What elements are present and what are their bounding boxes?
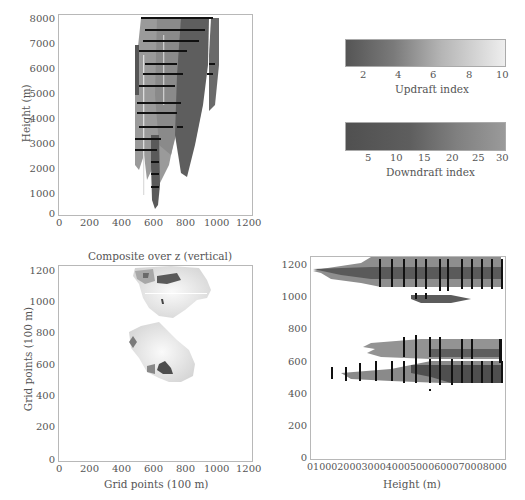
x-tick: 7000 — [459, 462, 483, 472]
y-tick: 400 — [36, 391, 55, 401]
y-tick: 4000 — [30, 114, 55, 124]
x-tick: 6000 — [434, 462, 458, 472]
cb-tick: 30 — [496, 153, 509, 163]
plot-area-bottom-left — [58, 265, 253, 462]
x-axis-label: Height (m) — [383, 479, 441, 490]
y-tick: 1200 — [30, 266, 55, 276]
y-tick: 7000 — [30, 39, 55, 49]
y-tick: 1000 — [30, 189, 55, 199]
cb-tick: 25 — [472, 153, 485, 163]
x-tick: 800 — [176, 464, 195, 474]
y-tick: 600 — [36, 360, 55, 370]
cb-tick: 8 — [466, 70, 472, 80]
cb-tick: 20 — [446, 153, 459, 163]
y-tick: 3000 — [30, 139, 55, 149]
composite-shapes — [59, 266, 252, 461]
plot-area-top-left — [58, 14, 253, 216]
y-tick: 5000 — [30, 89, 55, 99]
x-tick: 1000 — [313, 462, 337, 472]
x-tick: 600 — [144, 464, 163, 474]
y-tick: 1000 — [30, 297, 55, 307]
updraft-gradient — [345, 39, 506, 67]
x-axis-label: Grid points (100 m) — [104, 479, 208, 490]
x-tick: 200 — [80, 218, 99, 228]
x-tick: 3000 — [362, 462, 386, 472]
y-tick: 8000 — [30, 14, 55, 24]
y-tick: 200 — [288, 421, 307, 431]
x-tick: 2000 — [337, 462, 361, 472]
vertical-section-shapes — [59, 15, 252, 215]
x-tick: 0 — [56, 464, 62, 474]
x-tick: 200 — [80, 464, 99, 474]
plot-title: Composite over z (vertical) — [88, 251, 232, 262]
y-tick: 400 — [288, 389, 307, 399]
x-tick: 400 — [112, 218, 131, 228]
x-tick: 600 — [144, 218, 163, 228]
plot-area-bottom-right — [310, 256, 506, 460]
y-tick: 2000 — [30, 164, 55, 174]
y-tick: 800 — [36, 328, 55, 338]
colorbar-label: Downdraft index — [386, 167, 475, 178]
y-tick: 0 — [49, 455, 55, 465]
x-tick: 1000 — [204, 464, 229, 474]
y-tick: 600 — [288, 357, 307, 367]
colorbar-label: Updraft index — [395, 84, 469, 95]
downdraft-gradient — [345, 122, 506, 151]
y-tick: 800 — [288, 324, 307, 334]
x-tick: 0 — [56, 218, 62, 228]
x-tick: 1000 — [204, 218, 229, 228]
x-ticks: 0 1000 2000 3000 4000 5000 6000 7000 800… — [307, 462, 507, 472]
cb-tick: 10 — [496, 70, 509, 80]
y-tick: 200 — [36, 422, 55, 432]
cb-tick: 6 — [430, 70, 436, 80]
x-tick: 1200 — [236, 464, 261, 474]
y-tick: 0 — [49, 209, 55, 219]
y-tick: 6000 — [30, 64, 55, 74]
cb-tick: 5 — [365, 153, 371, 163]
y-tick: 1000 — [282, 292, 307, 302]
cb-tick: 10 — [390, 153, 403, 163]
y-tick: 1200 — [282, 260, 307, 270]
x-tick: 800 — [176, 218, 195, 228]
cb-tick: 2 — [360, 70, 366, 80]
y-axis-label: Grid points (100 m) — [23, 315, 34, 411]
height-section-shapes — [311, 257, 505, 459]
cb-tick: 15 — [418, 153, 431, 163]
x-tick: 1200 — [236, 218, 261, 228]
x-tick: 4000 — [386, 462, 410, 472]
x-tick: 5000 — [410, 462, 434, 472]
x-tick: 8000 — [483, 462, 507, 472]
cb-tick: 4 — [395, 70, 401, 80]
x-tick: 400 — [112, 464, 131, 474]
